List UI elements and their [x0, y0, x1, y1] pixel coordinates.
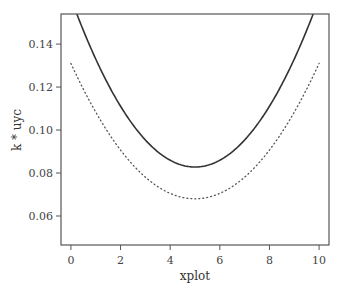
y-axis-label: k * uyc [10, 109, 24, 151]
axes-box [61, 14, 329, 245]
y-axis: 0.060.080.100.120.14 [29, 38, 62, 223]
y-tick-label: 0.10 [29, 124, 54, 137]
x-tick-label: 2 [117, 254, 124, 267]
y-tick-label: 0.06 [29, 210, 54, 223]
x-axis-label: xplot [180, 269, 211, 283]
x-tick-label: 8 [266, 254, 273, 267]
x-axis: 0246810 [67, 245, 326, 267]
y-tick-label: 0.08 [29, 167, 54, 180]
y-tick-label: 0.14 [29, 38, 54, 51]
line-chart: 0246810 0.060.080.100.120.14 xplot k * u… [0, 0, 345, 292]
x-tick-label: 0 [67, 254, 74, 267]
x-tick-label: 4 [167, 254, 174, 267]
plot-area [71, 0, 319, 199]
x-tick-label: 6 [216, 254, 223, 267]
y-tick-label: 0.12 [29, 81, 54, 94]
series-solid-line [71, 0, 319, 167]
x-tick-label: 10 [312, 254, 326, 267]
